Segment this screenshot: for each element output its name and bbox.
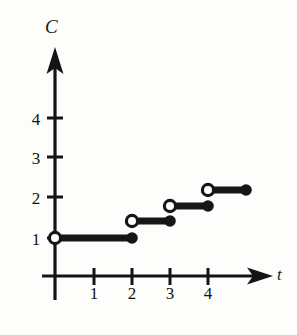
step-segment-1-open-endpoint: [49, 232, 60, 243]
y-axis-label: C: [45, 17, 58, 36]
x-axis-label: t: [277, 266, 282, 283]
step-segment-2-open-endpoint: [126, 215, 137, 226]
step-segment-1: [49, 232, 137, 244]
x-tick-label-3: 3: [160, 285, 180, 302]
plot-area: [0, 0, 297, 335]
x-tick-label-4: 4: [198, 285, 218, 302]
step-segment-3: [164, 200, 213, 212]
y-tick-label-4: 4: [26, 111, 46, 128]
step-segment-2: [126, 215, 175, 227]
step-segment-3-open-endpoint: [164, 200, 175, 211]
y-tick-label-3: 3: [26, 150, 46, 167]
step-segment-4: [202, 184, 251, 196]
y-tick-label-1: 1: [26, 231, 46, 248]
step-segment-1-closed-endpoint: [126, 232, 138, 244]
x-tick-label-2: 2: [122, 285, 142, 302]
step-segment-4-closed-endpoint: [240, 184, 252, 196]
step-function-figure: C t 1 2 3 4 1 2 3 4: [0, 0, 297, 335]
step-segment-4-open-endpoint: [202, 184, 213, 195]
x-tick-label-1: 1: [84, 285, 104, 302]
step-segment-2-closed-endpoint: [164, 215, 176, 227]
step-segment-3-closed-endpoint: [202, 200, 214, 212]
y-tick-label-2: 2: [26, 190, 46, 207]
